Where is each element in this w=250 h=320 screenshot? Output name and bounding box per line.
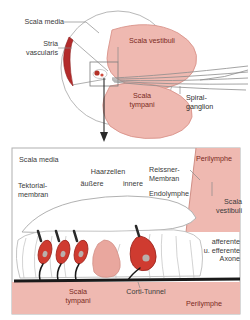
- label-tektorial-membran: Tektorial- membran: [18, 182, 78, 199]
- basilar-membrane-detail: [14, 279, 240, 281]
- figure-root: Scala media Stria vascularis Scala vesti…: [0, 0, 250, 320]
- label-scala-tympani-top: Scala tympani: [114, 92, 170, 109]
- hair-cell-cluster-marker: [94, 70, 99, 75]
- label-aeussere: äußere: [72, 180, 112, 189]
- outer-hair-cells: [36, 239, 90, 265]
- label-scala-tympani-detail: Scala tympani: [50, 288, 106, 305]
- label-scala-vestibuli-top: Scala vestibuli: [112, 37, 192, 46]
- label-stria-vascularis: Stria vascularis: [2, 40, 58, 57]
- label-scala-vestibuli-detail: Scala vestibuli: [192, 198, 242, 215]
- label-scala-media-top: Scala media: [4, 18, 64, 27]
- label-haarzellen: Haarzellen: [78, 168, 138, 177]
- label-spiral-ganglion: Spiral- ganglion: [186, 94, 248, 111]
- label-scala-media-detail: Scala media: [19, 156, 99, 165]
- scala-vestibuli-region: [107, 25, 197, 90]
- label-perilymphe-top: Perilymphe: [196, 155, 248, 164]
- label-innere: innere: [115, 180, 151, 189]
- label-corti-tunnel: Corti-Tunnel: [110, 288, 182, 297]
- inner-hair-cell-marker: [100, 73, 103, 76]
- label-afferente-axone: afferente u. efferente Axone: [178, 238, 240, 264]
- label-perilymphe-bottom: Perilymphe: [186, 300, 242, 309]
- label-reissner-membran: Reissner- Membran: [149, 166, 205, 183]
